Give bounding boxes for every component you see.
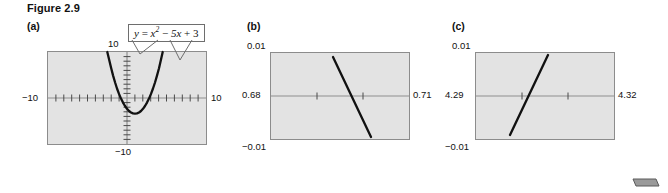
panel-letter-c: (c) (452, 20, 465, 32)
panel-letter-b: (b) (247, 20, 260, 32)
equation-term1-exponent: 2 (156, 25, 160, 34)
panel-a-x-max-label: 10 (211, 92, 222, 103)
zoom-line-c (510, 55, 548, 135)
panel-a-y-min-label: −10 (115, 146, 131, 157)
panel-c-x-max-label: 4.32 (618, 89, 637, 100)
panel-b-y-max-label: 0.01 (247, 40, 266, 51)
panel-c-y-min-label: −0.01 (445, 141, 469, 152)
equation-lhs: y (134, 27, 139, 39)
plot-b-svg (271, 53, 409, 139)
parallelogram-glyph-icon (632, 177, 662, 188)
plot-panel-b (270, 52, 410, 140)
panel-letter-a: (a) (27, 20, 40, 32)
figure-title: Figure 2.9 (27, 2, 80, 14)
equation-callout: y = x2 − 5x + 3 (128, 24, 205, 42)
parabola-curve-a (107, 52, 162, 114)
plot-panel-a (47, 51, 207, 145)
plot-c-svg (476, 53, 614, 139)
equation-op1: − (162, 27, 168, 39)
equation-term2: 5x (171, 27, 181, 39)
plot-panel-c (475, 52, 615, 140)
plot-a-svg (48, 52, 206, 144)
equation-equals: = (142, 27, 148, 39)
equation-term3: 3 (193, 27, 199, 39)
panel-b-y-min-label: −0.01 (242, 141, 266, 152)
panel-b-x-min-label: 0.68 (242, 89, 261, 100)
equation-op2: + (184, 27, 190, 39)
zoom-line-b (333, 57, 371, 137)
panel-b-x-max-label: 0.71 (413, 89, 432, 100)
panel-a-x-min-label: −10 (22, 92, 38, 103)
panel-a-y-max-label: 10 (108, 38, 119, 49)
panel-c-y-max-label: 0.01 (452, 40, 471, 51)
panel-c-x-min-label: 4.29 (445, 89, 464, 100)
